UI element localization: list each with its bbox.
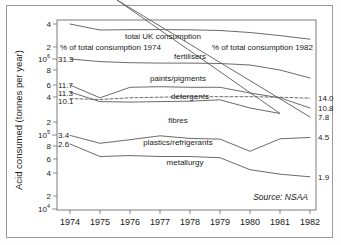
series-label-detergents: detergents	[171, 92, 209, 101]
x-tick-label-1974: 1974	[60, 217, 80, 227]
value-label-left-fertilisers: 31.3	[58, 55, 74, 64]
x-tick-label-1976: 1976	[120, 217, 140, 227]
acid-consumption-line-chart: Acid consumed (tonnes per year) 4 2 8 6 …	[0, 0, 341, 245]
x-tick-label-1982: 1982	[300, 217, 320, 227]
value-label-right-metallurgy: 1.9	[318, 173, 330, 182]
y-tick-label-2b: 2	[47, 118, 52, 127]
chart-page: Acid consumed (tonnes per year) 4 2 8 6 …	[0, 0, 341, 245]
y-tick-label-2a: 2	[47, 43, 52, 52]
series-label-fertilisers: fertilisers	[174, 52, 206, 61]
y-tick-label-1e6: 10 6	[38, 53, 50, 64]
x-tick-label-1980: 1980	[240, 217, 260, 227]
y-tick-label-8b: 8	[47, 142, 52, 151]
y-tick-label-4c: 4	[47, 169, 52, 178]
x-tick-label-1975: 1975	[90, 217, 110, 227]
value-label-right-detergents: 14.0	[318, 94, 334, 103]
value-label-left-plastics-refrigerants: 3.4	[58, 131, 70, 140]
x-tick-label-1981: 1981	[270, 217, 290, 227]
value-label-right-plastics-refrigerants: 4.5	[318, 133, 330, 142]
series-label-total-uk-consumption: total UK consumption	[125, 32, 201, 41]
y-axis-ticks	[52, 24, 57, 209]
y-tick-label-8a: 8	[47, 66, 52, 75]
y-tick-label-1e4: 10 4	[38, 203, 50, 214]
x-tick-label-1979: 1979	[210, 217, 230, 227]
series-label-paints-pigments: paints/pigments	[150, 74, 206, 83]
note-percent-1974: % of total consumption 1974	[60, 43, 162, 52]
x-tick-label-1977: 1977	[150, 217, 170, 227]
y-tick-label-6a: 6	[47, 81, 52, 90]
value-label-right-paints-pigments: 10.8	[318, 104, 334, 113]
note-percent-1982: % of total consumption 1982	[212, 43, 314, 52]
y-tick-exponent-1e6: 6	[47, 53, 50, 59]
y-axis-title: Acid consumed (tonnes per year)	[13, 50, 24, 190]
x-axis-ticks	[70, 210, 310, 214]
source-note: Source: NSAA	[253, 192, 308, 202]
y-tick-label-2c: 2	[47, 192, 52, 201]
x-tick-label-1978: 1978	[180, 217, 200, 227]
y-tick-label-6b: 6	[47, 155, 52, 164]
value-label-left-metallurgy: 2.6	[58, 140, 70, 149]
y-tick-label-4b: 4	[47, 93, 52, 102]
series-label-fibres: fibres	[168, 116, 188, 125]
value-label-right-fibres: 7.8	[318, 113, 330, 122]
y-tick-exponent-1e4: 4	[47, 203, 50, 209]
y-tick-exponent-1e5: 5	[47, 129, 50, 135]
y-tick-label-4a: 4	[47, 20, 52, 29]
value-label-left-detergents: 10.1	[58, 97, 74, 106]
series-label-plastics-refrigerants: plastics/refrigerants	[143, 138, 212, 147]
y-tick-label-1e5: 10 5	[38, 129, 50, 140]
series-label-metallurgy: metallurgy	[167, 158, 204, 167]
